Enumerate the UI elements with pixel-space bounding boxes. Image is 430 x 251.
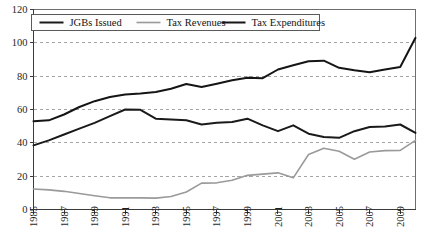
x-tick-label: 1985 — [28, 206, 39, 227]
legend-label: Tax Expenditures — [252, 17, 326, 28]
series-line-jgbs-issued — [34, 110, 416, 146]
x-tick-label: 1989 — [89, 206, 100, 227]
x-tick-label: 2007 — [364, 206, 375, 227]
line-chart: 0204060801001201985198719891991199319951… — [0, 0, 430, 251]
x-tick-label: 1993 — [150, 206, 161, 227]
x-tick-label: 2009 — [395, 206, 406, 227]
gridlines — [34, 10, 416, 177]
y-tick-label: 120 — [12, 4, 28, 15]
x-tick-label: 1995 — [181, 206, 192, 227]
series-group — [34, 38, 416, 198]
x-tick-label: 2005 — [334, 206, 345, 227]
legend: JGBs IssuedTax RevenuesTax Expenditures — [32, 15, 326, 31]
y-tick-label: 60 — [17, 104, 28, 115]
y-tick-label: 0 — [22, 204, 27, 215]
x-tick-label: 1997 — [211, 206, 222, 227]
series-line-tax-expenditures — [34, 38, 416, 121]
y-tick-label: 80 — [17, 71, 28, 82]
x-tick-label: 1999 — [242, 206, 253, 227]
legend-label: JGBs Issued — [70, 17, 123, 28]
x-tick-label: 1991 — [120, 206, 131, 227]
x-tick-label: 2001 — [273, 206, 284, 227]
y-tick-label: 20 — [17, 171, 28, 182]
x-tick-label: 2003 — [303, 206, 314, 227]
series-line-tax-revenues — [34, 140, 416, 198]
legend-label: Tax Revenues — [167, 17, 226, 28]
y-tick-label: 40 — [17, 137, 28, 148]
figure-container: 0204060801001201985198719891991199319951… — [0, 0, 430, 251]
y-axis-ticks: 020406080100120 — [12, 4, 34, 215]
y-tick-label: 100 — [12, 37, 28, 48]
x-tick-label: 1987 — [59, 206, 70, 227]
